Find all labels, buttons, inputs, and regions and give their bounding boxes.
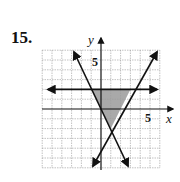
y-tick-label: 5 [92,55,98,69]
x-axis-label: x [165,111,172,126]
x-tick-label: 5 [145,111,151,125]
graph: y x 5 5 [0,0,180,182]
y-axis-label: y [86,32,94,47]
